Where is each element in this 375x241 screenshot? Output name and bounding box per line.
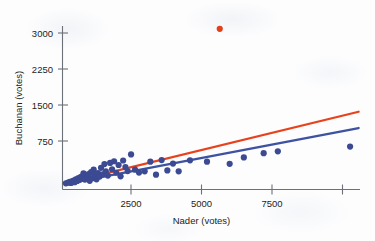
data-point [101, 161, 107, 167]
data-point [147, 159, 153, 165]
data-point [241, 154, 247, 160]
y-axis: 3000 2250 1500 750 Buchanan (votes) [13, 26, 68, 190]
fit-line-regression-with-outlier [67, 112, 359, 183]
data-point [142, 168, 148, 174]
data-points [63, 26, 353, 187]
data-point [187, 157, 193, 163]
data-point [128, 151, 134, 157]
data-point [159, 157, 165, 163]
data-point [275, 148, 281, 154]
data-point [116, 162, 122, 168]
data-point [125, 168, 131, 174]
data-point [105, 173, 111, 179]
regression-lines [67, 112, 359, 184]
data-point [117, 173, 123, 179]
plot-canvas: 3000 2250 1500 750 Buchanan (votes) 2500… [0, 0, 375, 241]
data-point [170, 160, 176, 166]
x-axis-title: Nader (votes) [173, 215, 231, 226]
data-point [204, 159, 210, 165]
y-tick-label-1500: 1500 [32, 100, 53, 111]
y-tick-label-750: 750 [37, 136, 53, 147]
data-point [217, 26, 223, 32]
y-axis-title: Buchanan (votes) [13, 71, 24, 145]
y-tick-label-2250: 2250 [32, 64, 53, 75]
scatter-plot-figure: 3000 2250 1500 750 Buchanan (votes) 2500… [0, 0, 375, 241]
x-tick-label-2500: 2500 [120, 198, 141, 209]
data-point [227, 161, 233, 167]
x-axis: 2500 5000 7500 Nader (votes) [63, 185, 361, 227]
data-point [153, 172, 159, 178]
data-point [347, 144, 353, 150]
data-point [176, 168, 182, 174]
data-point [120, 157, 126, 163]
y-tick-label-3000: 3000 [32, 28, 53, 39]
x-tick-label-7500: 7500 [261, 198, 282, 209]
data-point [136, 169, 142, 175]
data-point [164, 167, 170, 173]
x-tick-label-5000: 5000 [191, 198, 212, 209]
data-point [261, 150, 267, 156]
